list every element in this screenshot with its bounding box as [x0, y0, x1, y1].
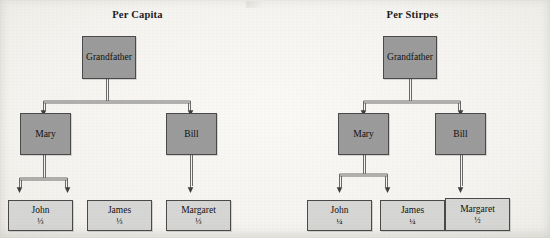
node-mary[interactable]: Mary	[20, 113, 71, 155]
node-bill[interactable]: Bill	[435, 113, 486, 155]
node-john[interactable]: John ⅓	[8, 200, 73, 231]
node-share: ⅓	[116, 217, 122, 227]
node-share: ⅓	[195, 217, 201, 227]
node-label: Grandfather	[86, 52, 132, 63]
node-grandfather[interactable]: Grandfather	[383, 36, 437, 79]
node-share: ⅓	[37, 217, 43, 227]
diagram-panel-per-capita: Per Capita	[0, 0, 275, 238]
node-label: Margaret	[460, 204, 495, 215]
node-label: John	[32, 205, 50, 216]
scan-artifact-smudge	[246, 1, 262, 8]
node-mary[interactable]: Mary	[338, 113, 389, 155]
node-james[interactable]: James ⅓	[87, 200, 152, 231]
node-share: ¼	[409, 217, 415, 227]
node-label: James	[401, 205, 424, 216]
node-label: James	[108, 205, 131, 216]
node-share: ¼	[336, 217, 342, 227]
node-grandfather[interactable]: Grandfather	[82, 36, 136, 79]
node-label: Margaret	[181, 205, 216, 216]
node-john[interactable]: John ¼	[307, 200, 372, 231]
node-label: Grandfather	[387, 52, 433, 63]
node-bill[interactable]: Bill	[166, 113, 217, 155]
node-label: John	[331, 205, 349, 216]
node-margaret[interactable]: Margaret ½	[445, 198, 510, 231]
node-james[interactable]: James ¼	[380, 200, 445, 231]
diagram-panel-per-stirpes: Per Stirpes	[275, 0, 550, 238]
node-label: Mary	[35, 129, 56, 140]
node-share: ½	[474, 216, 480, 226]
node-label: Mary	[353, 129, 374, 140]
node-margaret[interactable]: Margaret ⅓	[166, 200, 231, 231]
node-label: Bill	[453, 129, 467, 140]
node-label: Bill	[184, 129, 198, 140]
